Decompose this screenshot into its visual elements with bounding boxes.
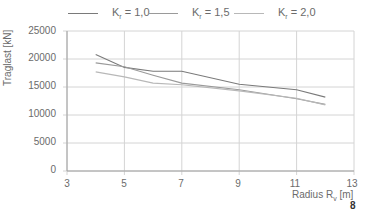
series-line-3	[96, 72, 326, 105]
line-chart-plot	[0, 0, 373, 214]
series-line-2	[96, 63, 326, 105]
series-line-1	[96, 55, 326, 98]
